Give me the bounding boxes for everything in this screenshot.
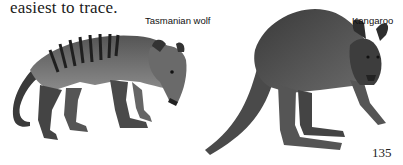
kangaroo-illustration [200, 5, 400, 165]
body-text: easiest to trace. [10, 0, 118, 18]
page-number: 135 [372, 145, 392, 161]
tasmanian-wolf-illustration [0, 30, 200, 165]
kangaroo-label: Kangaroo [352, 15, 393, 26]
